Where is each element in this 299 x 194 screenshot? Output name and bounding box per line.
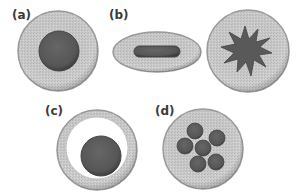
cell-diagram — [0, 0, 299, 194]
cell-c — [57, 110, 137, 190]
cell-d — [163, 109, 243, 189]
cell-b-elliptical — [113, 32, 201, 72]
cell-a — [18, 11, 98, 91]
cell-b-star — [207, 10, 289, 92]
